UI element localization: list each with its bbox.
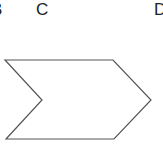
chevron-shape [5,60,151,139]
chevron-diagram [0,0,163,145]
